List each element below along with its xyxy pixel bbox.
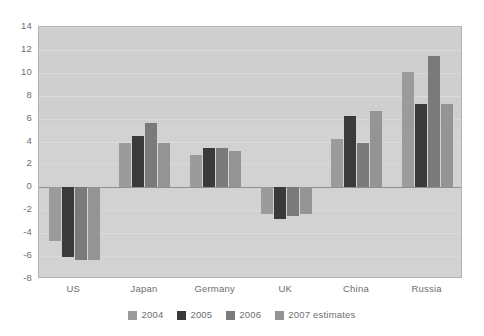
y-tick-label: -6 — [23, 250, 32, 260]
y-tick-label: 4 — [27, 136, 32, 146]
legend-swatch-icon — [226, 311, 235, 320]
plot-area — [38, 26, 462, 278]
legend-swatch-icon — [177, 311, 186, 320]
bar — [415, 104, 427, 188]
bars-layer — [39, 27, 461, 277]
bar — [441, 104, 453, 188]
bar-group — [322, 27, 393, 277]
legend-swatch-icon — [275, 311, 284, 320]
bar-group — [251, 27, 322, 277]
x-tick-label-japan: Japan — [109, 283, 180, 295]
bar — [62, 187, 74, 257]
bar-group — [39, 27, 110, 277]
legend-label: 2005 — [190, 310, 212, 320]
bar — [75, 187, 87, 259]
x-tick-label-russia: Russia — [391, 283, 462, 295]
bar — [300, 187, 312, 213]
chart-legend: 2004200520062007 estimates — [0, 307, 484, 323]
y-tick-label: 8 — [27, 90, 32, 100]
legend-swatch-icon — [128, 311, 137, 320]
bar — [428, 56, 440, 188]
bar — [287, 187, 299, 216]
bar — [88, 187, 100, 259]
legend-item[interactable]: 2005 — [177, 310, 212, 320]
bar — [190, 155, 202, 187]
bar — [331, 139, 343, 187]
bar-group — [392, 27, 462, 277]
bar — [119, 143, 131, 188]
bar — [49, 187, 61, 241]
y-tick-label: 0 — [27, 181, 32, 191]
bar — [132, 136, 144, 188]
legend-item[interactable]: 2004 — [128, 310, 163, 320]
x-axis: USJapanGermanyUKChinaRussia — [38, 283, 462, 299]
bar — [203, 148, 215, 187]
legend-label: 2006 — [239, 310, 261, 320]
legend-label: 2004 — [141, 310, 163, 320]
y-axis: 14121086420-2-4-6-8 — [0, 26, 32, 278]
bar — [145, 123, 157, 187]
bar — [402, 72, 414, 188]
bar — [216, 148, 228, 187]
bar — [229, 151, 241, 188]
bar — [274, 187, 286, 219]
y-tick-label: -8 — [23, 273, 32, 283]
y-tick-label: -2 — [23, 204, 32, 214]
bar-chart: 14121086420-2-4-6-8 USJapanGermanyUKChin… — [0, 0, 484, 336]
bar — [344, 116, 356, 187]
x-tick-label-china: China — [321, 283, 392, 295]
bar — [158, 143, 170, 188]
y-tick-label: 2 — [27, 158, 32, 168]
bar-group — [180, 27, 251, 277]
legend-item[interactable]: 2006 — [226, 310, 261, 320]
y-tick-label: 6 — [27, 113, 32, 123]
y-tick-label: -4 — [23, 227, 32, 237]
y-tick-label: 14 — [21, 21, 32, 31]
bar — [357, 143, 369, 188]
legend-item[interactable]: 2007 estimates — [275, 310, 355, 320]
x-tick-label-us: US — [38, 283, 109, 295]
bar-group — [110, 27, 181, 277]
x-tick-label-uk: UK — [250, 283, 321, 295]
x-tick-label-germany: Germany — [179, 283, 250, 295]
y-tick-label: 10 — [21, 67, 32, 77]
bar — [261, 187, 273, 213]
legend-label: 2007 estimates — [288, 310, 355, 320]
bar — [370, 111, 382, 188]
y-tick-label: 12 — [21, 44, 32, 54]
